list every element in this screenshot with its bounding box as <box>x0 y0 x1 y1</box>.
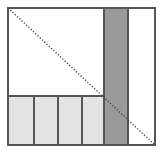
box-3 <box>58 96 82 145</box>
vertical-gray-band <box>104 8 128 145</box>
geometric-diagram <box>0 0 162 152</box>
box-2 <box>34 96 58 145</box>
box-1 <box>8 96 34 145</box>
figure-container <box>0 0 162 152</box>
box-4 <box>82 96 104 145</box>
